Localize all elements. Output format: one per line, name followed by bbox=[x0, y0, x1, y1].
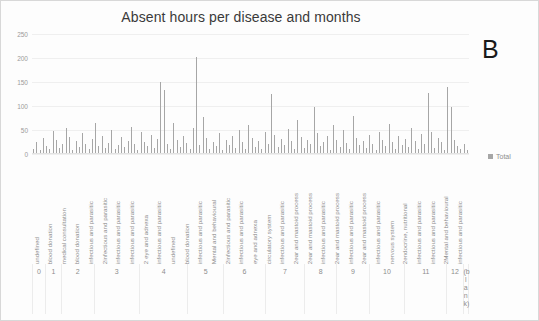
month-group-label: 7 bbox=[266, 268, 304, 276]
bar bbox=[183, 136, 184, 153]
bar bbox=[323, 142, 324, 153]
month-group-label: 3 bbox=[95, 268, 139, 276]
bar bbox=[229, 145, 230, 153]
bar bbox=[134, 144, 135, 153]
y-axis-tick-150: 150 bbox=[17, 79, 28, 86]
bar bbox=[232, 136, 233, 153]
bar bbox=[297, 120, 298, 153]
bar bbox=[226, 140, 227, 153]
month-group-label: 4 bbox=[140, 268, 188, 276]
bar bbox=[239, 130, 240, 153]
month-group-cell: (bl an k) bbox=[463, 264, 469, 314]
bar bbox=[369, 135, 370, 153]
bar bbox=[216, 146, 217, 153]
x-axis-category-label: infectious and parasitic bbox=[238, 201, 244, 264]
x-axis-category-label: infectious and parasitic bbox=[156, 201, 162, 264]
bar bbox=[144, 142, 145, 153]
legend-swatch-total bbox=[488, 154, 493, 159]
month-group-cell: 11 bbox=[404, 264, 446, 314]
bar bbox=[82, 133, 83, 153]
bar bbox=[258, 141, 259, 153]
x-axis-category-label: infectious and parasitic bbox=[375, 201, 381, 264]
bar bbox=[447, 87, 448, 153]
x-axis-category-label: 2ear and mastoid process bbox=[293, 193, 299, 264]
month-group-cell: 5 bbox=[187, 264, 223, 314]
bar bbox=[346, 143, 347, 153]
bar bbox=[372, 144, 373, 153]
x-axis-month-groups: 0123456789101112(bl an k) bbox=[32, 264, 469, 314]
y-axis: 050100150200250 bbox=[1, 1, 32, 161]
plot-area bbox=[32, 34, 469, 154]
x-axis-category-label: infectious and parasitic bbox=[347, 201, 353, 264]
bar bbox=[392, 142, 393, 153]
month-group-label: 2 bbox=[62, 268, 93, 276]
bar bbox=[151, 135, 152, 153]
bar bbox=[95, 123, 96, 153]
bar bbox=[421, 134, 422, 153]
x-axis-category-label: 2Mental and behavioural bbox=[443, 196, 449, 264]
month-group-cell: 4 bbox=[139, 264, 188, 314]
bar bbox=[382, 140, 383, 153]
bar bbox=[167, 144, 168, 153]
x-axis-category-label: infectious and parasitic bbox=[115, 201, 121, 264]
x-axis-category-label: blood donation bbox=[47, 223, 53, 264]
bar bbox=[333, 125, 334, 153]
bar bbox=[53, 131, 54, 153]
bar bbox=[128, 141, 129, 153]
bar bbox=[92, 139, 93, 153]
x-axis-category-label: medical consultation bbox=[61, 208, 67, 264]
bar bbox=[206, 138, 207, 153]
x-axis-category-label: nervous system bbox=[388, 221, 394, 264]
bar bbox=[281, 139, 282, 153]
bar bbox=[98, 146, 99, 153]
panel-letter-annotation: B bbox=[482, 37, 499, 62]
gridline-0 bbox=[32, 154, 469, 155]
bar bbox=[268, 144, 269, 153]
bar bbox=[186, 143, 187, 153]
month-group-cell: 3 bbox=[94, 264, 139, 314]
x-axis-category-label: infectious and parasitic bbox=[129, 201, 135, 264]
month-group-cell: 0 bbox=[32, 264, 45, 314]
bar bbox=[43, 138, 44, 153]
bar bbox=[56, 140, 57, 153]
bar bbox=[36, 142, 37, 153]
x-axis-category-label: blood donation bbox=[74, 223, 80, 264]
bar bbox=[431, 132, 432, 153]
bar bbox=[428, 93, 429, 153]
x-axis-category-label: infectious and parasitic bbox=[416, 201, 422, 264]
y-axis-tick-200: 200 bbox=[17, 55, 28, 62]
bar bbox=[327, 136, 328, 153]
bar bbox=[451, 107, 452, 153]
month-group-cell: 7 bbox=[265, 264, 304, 314]
bar bbox=[131, 127, 132, 153]
bar bbox=[301, 137, 302, 153]
legend-label-total: Total bbox=[496, 153, 511, 160]
y-axis-tick-50: 50 bbox=[21, 127, 28, 134]
x-axis-category-label: undefined bbox=[33, 237, 39, 264]
bar bbox=[46, 146, 47, 153]
bar bbox=[164, 90, 165, 153]
month-group-label: 10 bbox=[370, 268, 405, 276]
bar bbox=[288, 129, 289, 153]
bar bbox=[402, 145, 403, 153]
month-group-cell: 6 bbox=[223, 264, 265, 314]
bar bbox=[121, 137, 122, 153]
bar bbox=[242, 142, 243, 153]
bar bbox=[398, 136, 399, 153]
month-group-label: 0 bbox=[33, 268, 45, 276]
bar bbox=[359, 145, 360, 153]
month-group-label: 8 bbox=[305, 268, 336, 276]
bar bbox=[213, 142, 214, 153]
bar bbox=[291, 141, 292, 153]
bar bbox=[141, 132, 142, 153]
bar bbox=[336, 140, 337, 153]
bar bbox=[160, 82, 161, 153]
x-axis-category-label: 2infectious and parasitic bbox=[224, 198, 230, 264]
y-axis-tick-250: 250 bbox=[17, 31, 28, 38]
bar bbox=[441, 142, 442, 153]
bar bbox=[203, 117, 204, 153]
axis-baseline bbox=[32, 153, 469, 154]
x-axis-category-label: 2endocrine, nutritional bbox=[402, 203, 408, 264]
bar bbox=[438, 138, 439, 153]
y-axis-tick-100: 100 bbox=[17, 103, 28, 110]
